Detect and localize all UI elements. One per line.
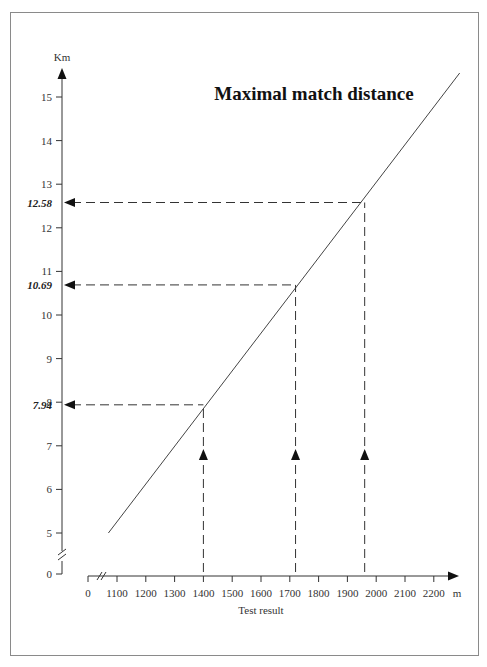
x-tick-label: 1400 (192, 587, 215, 599)
y-tick-label: 6 (47, 483, 53, 495)
annotation: 12.58 (27, 197, 369, 572)
y-axis-unit: Km (54, 51, 71, 63)
annotation-value-label: 12.58 (27, 197, 52, 209)
y-tick-label: 13 (41, 178, 53, 190)
y-ticks: 56789101112131415 (41, 91, 62, 539)
annotation-value-label: 10.69 (27, 279, 52, 291)
x-tick-label: 2000 (365, 587, 388, 599)
left-arrow-icon (64, 400, 75, 409)
up-arrow-icon (360, 449, 369, 460)
y-axis-arrow-icon (58, 68, 67, 79)
y-tick-label: 15 (41, 91, 53, 103)
up-arrow-icon (291, 449, 300, 460)
x-tick-label: 2200 (423, 587, 446, 599)
series-line (108, 73, 459, 533)
chart-title: Maximal match distance (214, 83, 413, 104)
x-tick-label: 1200 (135, 587, 158, 599)
x-tick-label: 1800 (308, 587, 331, 599)
left-arrow-icon (64, 198, 75, 207)
y-tick-label: 7 (47, 440, 53, 452)
y-tick-label: 10 (41, 309, 53, 321)
x-tick-label: 1300 (164, 587, 187, 599)
x-tick-label: 1600 (250, 587, 273, 599)
x-axis: 0 m Test result 110012001300140015001600… (85, 572, 461, 617)
annotations: 7.9410.6912.58 (27, 197, 369, 572)
up-arrow-icon (199, 449, 208, 460)
y-tick-label: 9 (47, 353, 53, 365)
chart-canvas: Maximal match distance Km 0 567891011121… (0, 0, 487, 667)
x-axis-title: Test result (238, 604, 283, 616)
annotation: 7.94 (33, 399, 208, 572)
x-tick-label: 1500 (221, 587, 244, 599)
y-tick-label-zero: 0 (47, 568, 53, 580)
y-axis: Km 0 56789101112131415 (41, 51, 71, 580)
data-series (108, 73, 459, 533)
y-tick-label: 5 (47, 527, 53, 539)
x-axis-unit: m (453, 587, 462, 599)
x-tick-label: 1700 (279, 587, 302, 599)
x-ticks: 1100120013001400150016001700180019002000… (106, 576, 445, 599)
annotation: 10.69 (27, 279, 300, 572)
y-tick-label: 11 (41, 265, 52, 277)
y-tick-label: 14 (41, 135, 53, 147)
x-tick-label: 1100 (106, 587, 128, 599)
x-axis-arrow-icon (448, 572, 459, 581)
x-tick-label: 1900 (336, 587, 359, 599)
annotation-value-label: 7.94 (33, 399, 53, 411)
y-tick-label: 12 (41, 222, 52, 234)
left-arrow-icon (64, 280, 75, 289)
x-tick-label: 2100 (394, 587, 417, 599)
x-tick-label-zero: 0 (85, 587, 91, 599)
